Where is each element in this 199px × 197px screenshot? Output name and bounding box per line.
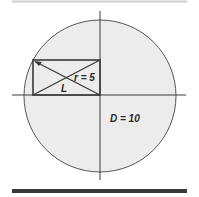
radius-label: r = 5 xyxy=(74,72,95,83)
diagonal-label: L xyxy=(61,83,67,94)
diameter-label: D = 10 xyxy=(110,113,140,124)
circle-rectangle-diagram: r = 5 L D = 10 xyxy=(0,0,199,197)
bottom-rule xyxy=(12,189,187,193)
